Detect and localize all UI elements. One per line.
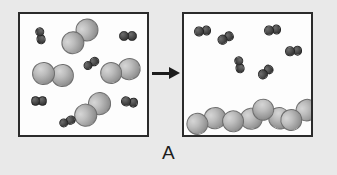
small-diatomic-molecule bbox=[194, 25, 213, 37]
before-panel bbox=[18, 12, 149, 137]
small-diatomic-molecule bbox=[119, 31, 136, 41]
small-diatomic-molecule bbox=[264, 24, 283, 36]
reaction-arrow bbox=[152, 66, 180, 82]
arrow-head-icon bbox=[169, 67, 180, 79]
large-diatomic-molecule bbox=[98, 56, 142, 86]
atom-sphere bbox=[119, 31, 129, 41]
large-diatomic-molecule bbox=[57, 14, 103, 59]
small-diatomic-molecule bbox=[121, 96, 140, 108]
atom-sphere bbox=[264, 25, 275, 36]
atom-sphere bbox=[285, 46, 295, 56]
small-diatomic-molecule bbox=[58, 115, 77, 130]
small-diatomic-molecule bbox=[233, 56, 245, 74]
after-panel bbox=[182, 12, 313, 137]
figure-caption: A bbox=[0, 142, 337, 164]
small-diatomic-molecule bbox=[31, 96, 48, 105]
small-diatomic-molecule bbox=[256, 63, 275, 82]
atom-sphere bbox=[194, 26, 205, 37]
small-diatomic-molecule bbox=[285, 45, 303, 56]
large-diatomic-molecule bbox=[31, 60, 75, 87]
small-diatomic-molecule bbox=[216, 30, 236, 47]
large-diatomic-molecule bbox=[69, 87, 115, 131]
figure-stage: A bbox=[0, 0, 337, 175]
small-diatomic-molecule bbox=[34, 27, 46, 45]
